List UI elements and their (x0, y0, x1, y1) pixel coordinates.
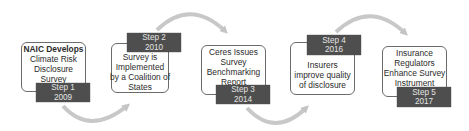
step-4-year: 2016 (307, 45, 361, 55)
step-3-line: Survey (220, 57, 246, 67)
step-5-line: Insurance (396, 48, 433, 58)
step-4-tag: Step 4 2016 (307, 35, 361, 55)
step-1-line: NAIC Develops (23, 44, 83, 54)
arrow-step3-to-step4 (247, 108, 306, 123)
step-4-line: Insurers (307, 60, 337, 70)
step-2-line: by a Coalition of (110, 72, 170, 82)
arrow-step1-to-step2 (63, 106, 127, 121)
step-4-label: Step 4 (307, 36, 361, 46)
step-2-tag: Step 2 2010 (127, 33, 181, 52)
step-1-year: 2009 (36, 93, 90, 103)
step-1-line: Climate Risk (30, 54, 77, 64)
step-1-tag: Step 1 2009 (36, 83, 90, 102)
arrow-step2-to-step3 (157, 14, 225, 31)
step-2-year: 2010 (127, 43, 181, 53)
step-1-label: Step 1 (36, 83, 90, 93)
step-2-line: Implemented (116, 62, 164, 72)
step-4-line: of disclosure (299, 80, 346, 90)
step-5-tag: Step 5 2017 (397, 87, 451, 107)
step-3-line: Benchmarking (207, 67, 261, 77)
step-3-label: Step 3 (216, 85, 270, 95)
step-5-line: Enhance Survey (384, 68, 445, 78)
step-5-line: Instrument (395, 78, 435, 88)
step-2-line: States (128, 82, 152, 92)
step-3-line: Ceres Issues (209, 47, 258, 57)
step-5-line: Regulators (394, 58, 435, 68)
step-3-year: 2014 (216, 95, 270, 105)
step-3-tag: Step 3 2014 (216, 85, 270, 104)
step-2-line: Survey is (123, 52, 157, 62)
step-2-label: Step 2 (127, 33, 181, 43)
step-5-year: 2017 (397, 97, 451, 107)
step-1-line: Disclosure (34, 64, 73, 74)
step-5-label: Step 5 (397, 88, 451, 98)
step-4-line: improve quality (294, 70, 350, 80)
arrow-step4-to-step5 (336, 16, 405, 33)
